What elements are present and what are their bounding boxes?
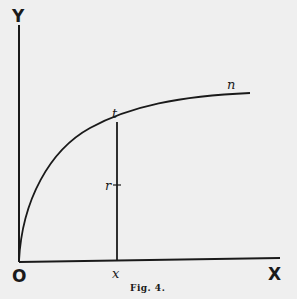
curve-on [19, 93, 250, 261]
point-n-label: n [227, 77, 235, 92]
origin-label: O [12, 266, 26, 286]
r-label: r [105, 178, 112, 193]
figure-4: Y O X t n x r Fig. 4. [0, 0, 297, 299]
x-axis [19, 258, 280, 262]
point-t-label: t [112, 106, 118, 121]
x-axis-label: X [268, 264, 281, 284]
figure-caption: Fig. 4. [130, 283, 165, 293]
point-x-label: x [112, 266, 120, 281]
y-axis-label: Y [11, 6, 25, 26]
